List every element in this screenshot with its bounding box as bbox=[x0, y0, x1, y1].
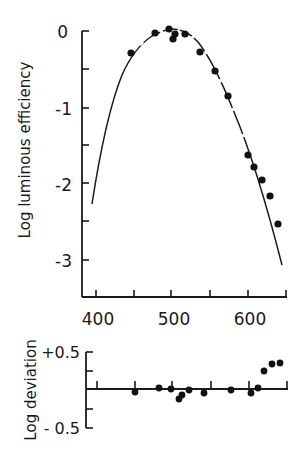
bottom-y-label: Log deviation bbox=[22, 339, 40, 440]
top-data-points bbox=[127, 25, 281, 227]
xtick-600: 600 bbox=[234, 309, 266, 329]
top-ytick-minus2: -2 bbox=[55, 175, 72, 195]
bottom-data-points bbox=[132, 360, 284, 403]
luminous-efficiency-figure: 0 -1 -2 -3 400 500 600 Log luminous effi… bbox=[0, 0, 305, 459]
fitted-curve bbox=[92, 29, 282, 265]
top-y-label: Log luminous efficiency bbox=[16, 61, 34, 238]
top-ytick-minus1: -1 bbox=[55, 99, 72, 119]
top-ytick-0: 0 bbox=[57, 22, 68, 42]
bottom-ytick-plus: +0.5 bbox=[41, 343, 80, 362]
top-ytick-minus3: -3 bbox=[55, 251, 72, 271]
top-panel: 0 -1 -2 -3 400 500 600 Log luminous effi… bbox=[16, 22, 287, 329]
xtick-400: 400 bbox=[82, 309, 114, 329]
bottom-ytick-minus: - 0.5 bbox=[44, 419, 80, 438]
bottom-panel: +0.5 - 0.5 Log deviation bbox=[22, 339, 288, 440]
xtick-500: 500 bbox=[158, 309, 190, 329]
